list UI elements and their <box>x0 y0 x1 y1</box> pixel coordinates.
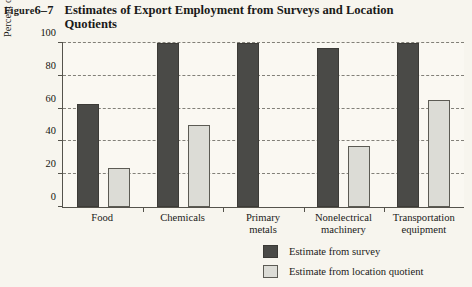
plot-wrapper: 020406080100 <box>62 43 464 208</box>
category-label-line: Chemicals <box>143 212 221 224</box>
legend-label: Estimate from survey <box>289 246 380 257</box>
y-axis-title-line-1: Percent of employment producing <box>2 0 14 46</box>
chart-legend: Estimate from surveyEstimate from locati… <box>263 241 423 281</box>
bar-groups <box>63 43 464 207</box>
bar-location-quotient <box>188 125 210 207</box>
bar-group <box>223 43 303 207</box>
x-axis-category-label: Chemicals <box>142 212 222 236</box>
plot-area: 020406080100 <box>62 43 464 208</box>
category-label-line: Primary <box>224 212 302 224</box>
y-tick-label: 100 <box>40 27 56 38</box>
category-label-line: Transportation <box>385 212 463 224</box>
bar-group <box>143 43 223 207</box>
y-tick-label: 0 <box>51 191 56 202</box>
category-label-line: machinery <box>304 224 382 236</box>
bar-location-quotient <box>348 146 370 207</box>
y-tick-label: 40 <box>46 125 56 136</box>
legend-swatch-survey <box>263 245 278 258</box>
legend-item: Estimate from survey <box>263 241 423 261</box>
bar-survey <box>237 43 259 207</box>
bar-survey <box>397 43 419 207</box>
y-tick-label: 60 <box>46 92 56 103</box>
x-axis-category-label: Transportationequipment <box>384 212 464 236</box>
legend-swatch-location-quotient <box>263 265 278 278</box>
y-tick-label: 20 <box>46 158 56 169</box>
bar-survey <box>157 43 179 207</box>
x-axis-category-label: Primarymetals <box>223 212 303 236</box>
legend-label: Estimate from location quotient <box>289 266 423 277</box>
bar-survey <box>317 48 339 207</box>
bar-survey <box>77 104 99 207</box>
bar-location-quotient <box>108 168 130 207</box>
page-title: Estimates of Export Employment from Surv… <box>65 3 395 32</box>
bar-group <box>304 43 384 207</box>
x-axis-category-label: Food <box>62 212 142 236</box>
category-label-line: metals <box>224 224 302 236</box>
x-axis-category-label: Nonelectricalmachinery <box>303 212 383 236</box>
figure-title-block: Figure6–7 Estimates of Export Employment… <box>4 3 468 32</box>
bar-group <box>384 43 464 207</box>
category-label-line: Food <box>63 212 141 224</box>
y-axis-title: Percent of employment producing for expo… <box>2 0 26 46</box>
x-axis-category-labels: FoodChemicalsPrimarymetalsNonelectricalm… <box>62 212 464 236</box>
bar-group <box>63 43 143 207</box>
category-label-line: Nonelectrical <box>304 212 382 224</box>
category-label-line: equipment <box>385 224 463 236</box>
legend-item: Estimate from location quotient <box>263 261 423 281</box>
figure-label-number: 6–7 <box>34 3 53 17</box>
y-axis-title-line-2: for export <box>14 0 26 46</box>
y-tick-label: 80 <box>46 59 56 70</box>
figure-container: Figure6–7 Estimates of Export Employment… <box>0 0 472 287</box>
bar-location-quotient <box>428 100 450 207</box>
